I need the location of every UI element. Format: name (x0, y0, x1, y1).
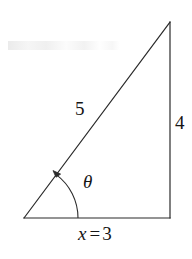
opposite-side-label: 4 (175, 113, 185, 132)
base-label: x=3 (78, 224, 112, 243)
base-value-label: 3 (102, 223, 112, 244)
triangle-diagram-canvas: 5 4 θ x=3 (0, 0, 192, 259)
base-equals-sign: = (87, 223, 102, 244)
triangle-hypotenuse-line (24, 22, 170, 218)
right-triangle-figure (0, 0, 192, 259)
theta-angle-label: θ (83, 172, 92, 191)
hypotenuse-label: 5 (75, 99, 85, 118)
angle-arc-arrowhead (53, 171, 61, 178)
angle-arc (56, 175, 78, 218)
